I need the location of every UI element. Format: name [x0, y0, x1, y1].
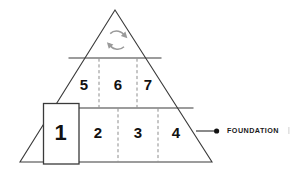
- foundation-callout-label: FOUNDATION: [227, 126, 279, 135]
- cell-label-3: 3: [134, 124, 142, 141]
- cell-label-6: 6: [114, 76, 122, 93]
- cell-label-4: 4: [172, 124, 181, 141]
- cell-label-2: 2: [94, 124, 102, 141]
- pyramid-diagram: 5 6 7 1 2 3 4 FOUNDATION: [0, 0, 301, 177]
- cell-label-7: 7: [144, 76, 152, 93]
- cell-label-5: 5: [80, 76, 88, 93]
- scan-artifact: [288, 127, 290, 134]
- cell-label-1: 1: [54, 120, 66, 145]
- callout-leader-dot: [214, 128, 219, 133]
